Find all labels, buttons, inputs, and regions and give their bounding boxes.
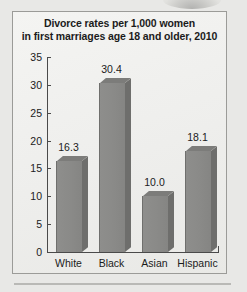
y-axis-tick <box>47 196 51 197</box>
bar-value-label: 10.0 <box>144 176 164 188</box>
y-axis-tick-label: 25 <box>30 107 42 119</box>
y-axis-tick-label: 35 <box>30 51 42 63</box>
x-axis-label-white: White <box>47 257 90 269</box>
x-axis-label-black: Black <box>90 257 133 269</box>
y-axis-tick-label: 30 <box>30 79 42 91</box>
y-axis-tick <box>47 141 51 142</box>
bar-value-label: 30.4 <box>101 63 121 75</box>
plot-area: 05101520253035 16.330.410.018.1 WhiteBla… <box>47 57 219 253</box>
y-axis-tick <box>47 252 51 253</box>
scan-artifact <box>163 0 221 9</box>
chart-title-line-2: in first marriages age 18 and older, 201… <box>13 30 226 43</box>
y-axis-tick-label: 5 <box>36 218 42 230</box>
bar-side-face <box>125 78 131 252</box>
bar-value-label: 18.1 <box>187 131 207 143</box>
bar-front-face <box>56 161 82 252</box>
bar-side-face <box>82 156 88 252</box>
y-axis-tick-label: 0 <box>36 246 42 258</box>
y-axis-tick <box>47 113 51 114</box>
bar-black: 30.4 <box>99 83 124 252</box>
y-axis-tick-label: 15 <box>30 162 42 174</box>
y-axis-tick <box>47 85 51 86</box>
x-axis-label-asian: Asian <box>133 257 176 269</box>
bar-white: 16.3 <box>56 161 81 252</box>
y-axis-tick <box>47 57 51 58</box>
x-axis-endcap <box>218 246 219 253</box>
bar-side-face <box>211 146 217 252</box>
y-axis-tick-label: 20 <box>30 135 42 147</box>
chart-frame: Divorce rates per 1,000 women in first m… <box>12 11 227 274</box>
bar-asian: 10.0 <box>142 196 167 252</box>
bar-top-face <box>100 78 131 83</box>
bar-value-label: 16.3 <box>58 141 78 153</box>
bar-front-face <box>99 83 125 252</box>
x-axis-line <box>47 252 219 253</box>
chart-title: Divorce rates per 1,000 women in first m… <box>13 17 226 42</box>
bar-hispanic: 18.1 <box>185 151 210 252</box>
y-axis-tick <box>47 224 51 225</box>
bar-front-face <box>142 196 168 252</box>
x-axis-label-hispanic: Hispanic <box>176 257 219 269</box>
bar-side-face <box>168 192 174 252</box>
bottom-rule <box>14 283 231 285</box>
chart-title-line-1: Divorce rates per 1,000 women <box>13 17 226 30</box>
y-axis-tick-label: 10 <box>30 190 42 202</box>
bar-front-face <box>185 151 211 252</box>
y-axis-tick <box>47 168 51 169</box>
